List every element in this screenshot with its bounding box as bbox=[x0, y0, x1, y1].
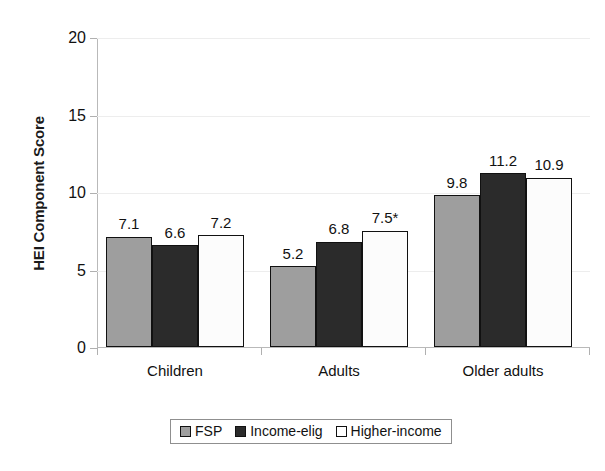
x-axis-label-older-adults: Older adults bbox=[463, 362, 544, 379]
legend-item-income-elig[interactable]: Income-elig bbox=[235, 423, 322, 439]
y-tick-label-20: 20 bbox=[68, 29, 86, 47]
bar-value-older-adults-income-elig: 11.2 bbox=[489, 152, 517, 169]
bar-children-income-elig[interactable] bbox=[152, 245, 198, 347]
gridline-15 bbox=[97, 116, 590, 117]
bar-value-older-adults-higher-income: 10.9 bbox=[534, 156, 563, 173]
bar-value-adults-higher-income: 7.5* bbox=[372, 209, 399, 226]
x-tick-mark-2 bbox=[425, 348, 426, 355]
bar-value-children-higher-income: 7.2 bbox=[211, 214, 232, 231]
bar-adults-fsp[interactable] bbox=[270, 266, 316, 347]
legend-label-income-elig: Income-elig bbox=[250, 423, 322, 439]
y-tick-mark-10 bbox=[90, 193, 97, 194]
bar-adults-higher-income[interactable] bbox=[362, 231, 408, 347]
y-tick-label-0: 0 bbox=[77, 339, 86, 357]
chart-legend: FSP Income-elig Higher-income bbox=[170, 419, 452, 444]
y-axis-title: HEI Component Score bbox=[30, 64, 47, 324]
x-tick-mark-start bbox=[97, 348, 98, 355]
y-tick-mark-20 bbox=[90, 38, 97, 39]
x-tick-mark-1 bbox=[261, 348, 262, 355]
y-tick-mark-5 bbox=[90, 271, 97, 272]
bar-value-children-fsp: 7.1 bbox=[119, 215, 140, 232]
plot-area: 20 15 10 5 0 7.1 6.6 7.2 5.2 6.8 7.5* 9.… bbox=[97, 38, 590, 348]
chart-figure: HEI Component Score 20 15 10 5 0 7.1 6.6… bbox=[0, 0, 605, 471]
legend-item-fsp[interactable]: FSP bbox=[180, 423, 222, 439]
bar-older-adults-income-elig[interactable] bbox=[480, 173, 526, 347]
legend-swatch-fsp-icon bbox=[180, 426, 191, 437]
gridline-20 bbox=[97, 38, 590, 39]
y-tick-label-5: 5 bbox=[77, 262, 86, 280]
y-tick-label-10: 10 bbox=[68, 184, 86, 202]
legend-item-higher-income[interactable]: Higher-income bbox=[336, 423, 442, 439]
bar-value-adults-income-elig: 6.8 bbox=[329, 220, 350, 237]
x-tick-mark-end bbox=[589, 348, 590, 355]
bar-value-older-adults-fsp: 9.8 bbox=[447, 174, 468, 191]
bar-older-adults-higher-income[interactable] bbox=[526, 178, 572, 347]
legend-label-higher-income: Higher-income bbox=[351, 423, 442, 439]
y-tick-mark-15 bbox=[90, 116, 97, 117]
bar-value-children-income-elig: 6.6 bbox=[165, 224, 186, 241]
x-axis-label-adults: Adults bbox=[318, 362, 360, 379]
bar-children-higher-income[interactable] bbox=[198, 235, 244, 347]
y-tick-mark-0 bbox=[90, 348, 97, 349]
legend-swatch-higher-income-icon bbox=[336, 426, 347, 437]
x-axis-label-children: Children bbox=[147, 362, 203, 379]
bar-value-adults-fsp: 5.2 bbox=[283, 245, 304, 262]
x-axis-line bbox=[97, 347, 590, 348]
legend-label-fsp: FSP bbox=[195, 423, 222, 439]
y-tick-label-15: 15 bbox=[68, 107, 86, 125]
legend-swatch-income-elig-icon bbox=[235, 426, 246, 437]
bar-adults-income-elig[interactable] bbox=[316, 242, 362, 347]
bar-children-fsp[interactable] bbox=[106, 237, 152, 347]
bar-older-adults-fsp[interactable] bbox=[434, 195, 480, 347]
